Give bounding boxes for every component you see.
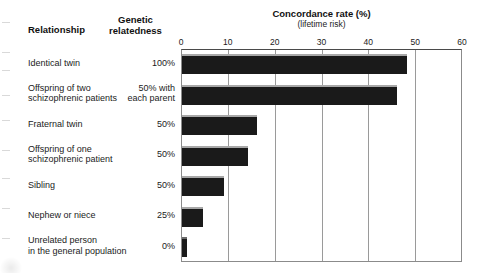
bar-row-2 bbox=[182, 115, 257, 135]
x-tick-20: 20 bbox=[263, 37, 287, 47]
row-relatedness-line1: 100% bbox=[96, 58, 175, 69]
bar-row-3 bbox=[182, 146, 248, 166]
x-tick-40: 40 bbox=[356, 37, 380, 47]
gridline-50 bbox=[415, 50, 416, 261]
row-relatedness-line1: 50% with bbox=[96, 83, 175, 94]
genetic-relatedness-header-line1: Genetic bbox=[96, 14, 175, 25]
row-relatedness-5: 25% bbox=[96, 210, 175, 221]
chart-plot-area bbox=[181, 49, 462, 262]
scan-edge-artifacts bbox=[0, 0, 14, 273]
genetic-relatedness-header-line2: relatedness bbox=[96, 25, 175, 36]
x-tick-50: 50 bbox=[403, 37, 427, 47]
x-tick-0: 0 bbox=[169, 37, 193, 47]
x-tick-60: 60 bbox=[450, 37, 474, 47]
bar-row-6 bbox=[182, 237, 187, 257]
row-relatedness-line1: 0% bbox=[96, 241, 175, 252]
genetic-relatedness-column-header-wrap: Genetic relatedness bbox=[96, 14, 175, 36]
bar-row-0 bbox=[182, 54, 407, 74]
chart-title: Concordance rate (%) bbox=[181, 8, 462, 19]
chart-subtitle: (lifetime risk) bbox=[181, 19, 462, 29]
gridline-20 bbox=[275, 50, 276, 261]
row-relatedness-1: 50% witheach parent bbox=[96, 83, 175, 104]
bar-row-4 bbox=[182, 176, 224, 196]
row-relatedness-line2: each parent bbox=[96, 93, 175, 104]
row-relatedness-line1: 50% bbox=[96, 149, 175, 160]
row-relatedness-4: 50% bbox=[96, 180, 175, 191]
x-tick-10: 10 bbox=[216, 37, 240, 47]
row-relatedness-line1: 50% bbox=[96, 180, 175, 191]
gridline-40 bbox=[368, 50, 369, 261]
gridline-30 bbox=[322, 50, 323, 261]
row-relatedness-0: 100% bbox=[96, 58, 175, 69]
row-relatedness-3: 50% bbox=[96, 149, 175, 160]
row-relatedness-6: 0% bbox=[96, 241, 175, 252]
bar-row-1 bbox=[182, 85, 397, 105]
row-relatedness-2: 50% bbox=[96, 119, 175, 130]
bar-row-5 bbox=[182, 207, 203, 227]
chart-title-wrap: Concordance rate (%) (lifetime risk) bbox=[181, 8, 462, 29]
row-relatedness-line1: 25% bbox=[96, 210, 175, 221]
row-relatedness-line1: 50% bbox=[96, 119, 175, 130]
x-tick-30: 30 bbox=[310, 37, 334, 47]
